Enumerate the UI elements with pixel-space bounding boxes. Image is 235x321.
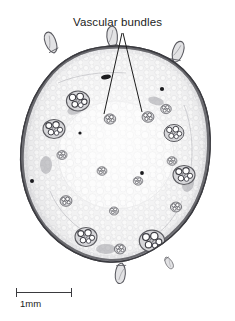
figure-panel: Vascular bundles 1mm xyxy=(0,0,235,321)
annotation-label: Vascular bundles xyxy=(0,16,235,28)
micrograph-stage xyxy=(6,5,228,312)
scale-bar-rule xyxy=(16,292,72,293)
scale-bar-label: 1mm xyxy=(16,298,80,309)
scale-bar-cap-right xyxy=(71,288,72,297)
scale-bar: 1mm xyxy=(16,288,80,309)
scale-bar-line xyxy=(16,288,80,297)
